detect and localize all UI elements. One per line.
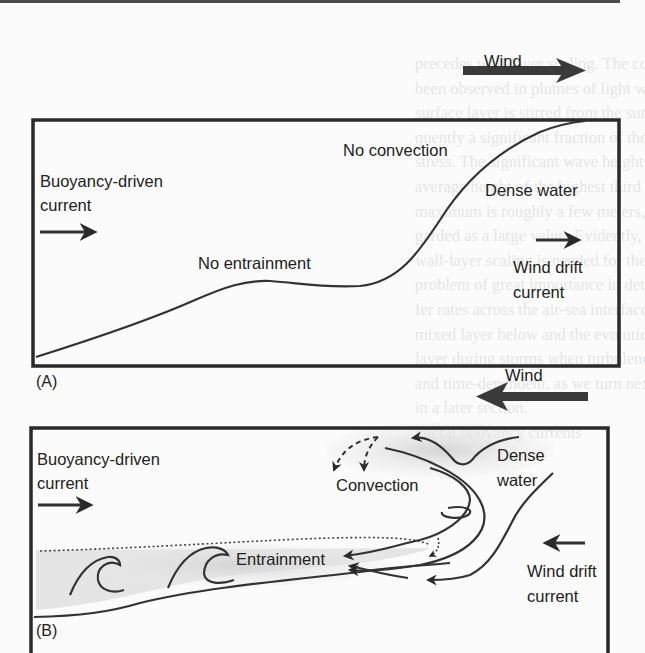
panel-a-buoyancy-label-line1: Buoyancy-driven (40, 172, 163, 191)
density-interface-curve (36, 121, 585, 357)
entrainment-label: Entrainment (236, 550, 325, 569)
panel-a (33, 58, 619, 366)
panel-a-wind-label: Wind (484, 52, 522, 71)
panel-b-buoyancy-label-line1: Buoyancy-driven (37, 450, 160, 469)
panel-b-tag: (B) (36, 622, 57, 640)
panel-b-wind-drift-label-line2: current (527, 587, 578, 606)
panel-b-dense-label-line2: water (497, 471, 537, 490)
panel-a-buoyancy-label-line2: current (40, 196, 91, 215)
panel-a-wind-drift-label-line1: Wind drift (513, 258, 583, 277)
panel-a-wind-drift-label-line2: current (513, 283, 564, 302)
panel-b-wind-drift-label-line1: Wind drift (527, 562, 597, 581)
panel-b-wind-label: Wind (505, 366, 543, 385)
panel-b (31, 382, 608, 653)
no-convection-label: No convection (343, 141, 448, 160)
no-entrainment-label: No entrainment (198, 254, 311, 273)
wind-arrow-right-icon (463, 58, 586, 83)
panel-a-tag: (A) (36, 373, 57, 391)
panel-a-dense-water-label: Dense water (485, 181, 578, 200)
convection-label: Convection (336, 476, 419, 495)
panel-b-dense-label-line1: Dense (497, 446, 545, 465)
wind-arrow-left-icon (476, 382, 588, 411)
panel-b-buoyancy-label-line2: current (37, 474, 88, 493)
